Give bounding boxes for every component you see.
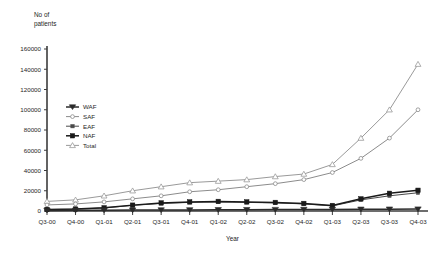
x-tick-label: Q4-01 — [181, 218, 199, 225]
marker-circle — [388, 136, 392, 140]
x-tick-label: Q1-02 — [210, 218, 228, 225]
marker-circle — [45, 203, 49, 207]
marker-circle — [359, 156, 363, 160]
legend-label-waf: WAF — [83, 103, 97, 110]
marker-square — [187, 200, 191, 204]
x-tick-label: Q1-01 — [95, 218, 113, 225]
marker-circle — [188, 190, 192, 194]
y-tick-label: 100000 — [20, 106, 41, 113]
marker-circle — [102, 200, 106, 204]
y-tick-label: 40000 — [24, 167, 42, 174]
marker-square — [159, 201, 163, 205]
marker-square — [273, 200, 277, 204]
marker-circle — [159, 194, 163, 198]
marker-square — [416, 188, 420, 192]
y-tick-label: 140000 — [20, 66, 41, 73]
series-line-total — [47, 64, 418, 201]
marker-circle — [330, 171, 334, 175]
x-tick-label: Q2-03 — [352, 218, 370, 225]
legend-label-total: Total — [83, 142, 96, 149]
series-total — [47, 64, 418, 201]
marker-circle — [273, 182, 277, 186]
marker-triangle-up — [387, 107, 393, 112]
marker-circle — [131, 197, 135, 201]
marker-square — [387, 191, 391, 195]
marker-triangle-up — [415, 61, 421, 66]
marker-circle — [416, 108, 420, 112]
marker-square — [359, 197, 363, 201]
marker-square — [130, 203, 134, 207]
x-tick-label: Q3-03 — [381, 218, 399, 225]
x-tick-label: Q3-02 — [267, 218, 285, 225]
marker-square — [70, 134, 74, 138]
y-tick-label: 80000 — [24, 126, 42, 133]
x-tick-label: Q2-02 — [238, 218, 256, 225]
y-tick-label: 0 — [38, 207, 42, 214]
y-tick-label: 120000 — [20, 86, 41, 93]
line-chart: No ofpatients020000400006000080000100000… — [0, 0, 436, 253]
legend-label-naf: NAF — [83, 132, 96, 139]
chart-container: No ofpatients020000400006000080000100000… — [0, 0, 436, 253]
y-tick-label: 160000 — [20, 45, 41, 52]
x-tick-label: Q4-03 — [409, 218, 427, 225]
x-tick-label: Q3-01 — [153, 218, 171, 225]
marker-square — [302, 201, 306, 205]
marker-circle — [216, 188, 220, 192]
y-tick-label: 60000 — [24, 147, 42, 154]
marker-circle — [74, 202, 78, 206]
marker-circle — [245, 185, 249, 189]
x-tick-label: Q1-03 — [324, 218, 342, 225]
marker-square — [245, 200, 249, 204]
x-tick-label: Q4-00 — [67, 218, 85, 225]
marker-circle — [302, 178, 306, 182]
x-tick-label: Q4-02 — [295, 218, 313, 225]
y-tick-label: 20000 — [24, 187, 42, 194]
y-axis-title-line1: No of — [34, 11, 49, 18]
x-axis-title: Year — [226, 235, 240, 242]
legend-label-saf: SAF — [83, 113, 95, 120]
marker-square-small — [71, 125, 74, 128]
legend-label-eaf: EAF — [83, 123, 95, 130]
x-tick-label: Q2-01 — [124, 218, 142, 225]
marker-circle — [71, 115, 75, 119]
x-tick-label: Q3-00 — [38, 218, 56, 225]
y-axis-title-line2: patients — [34, 20, 56, 28]
marker-square — [216, 199, 220, 203]
